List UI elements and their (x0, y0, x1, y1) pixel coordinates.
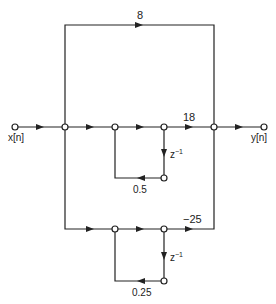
branches (15, 25, 264, 281)
gain-bot: −25 (183, 213, 202, 225)
feedback2-gain: 0.25 (132, 287, 152, 298)
output-label: y[n] (251, 132, 267, 143)
gain-mid: 18 (183, 111, 195, 123)
feedback1-gain: 0.5 (133, 184, 147, 195)
gain-top: 8 (137, 9, 143, 21)
signal-flow-graph: x[n] y[n] 8 18 −25 z−1 z−1 0.5 0.25 (0, 0, 276, 304)
arrows (36, 22, 243, 284)
nodes (12, 124, 267, 284)
input-label: x[n] (8, 132, 24, 143)
delay2-label: z−1 (170, 251, 183, 263)
delay1-label: z−1 (170, 148, 183, 160)
